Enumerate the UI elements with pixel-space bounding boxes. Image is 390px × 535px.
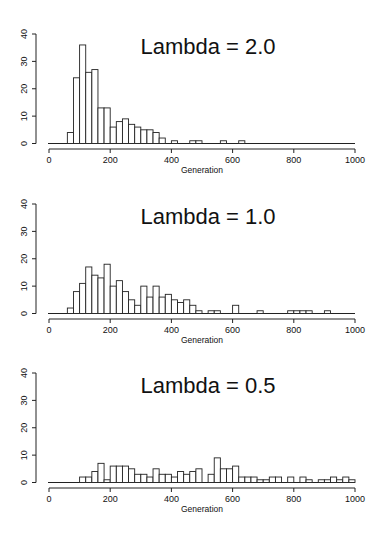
histogram-bar [159, 297, 165, 313]
histogram-bar [116, 281, 122, 314]
histogram-bar [239, 141, 245, 144]
histogram-bar [257, 311, 263, 314]
histogram-bar [220, 469, 226, 483]
histogram-bar [184, 474, 190, 482]
histogram-bar [135, 127, 141, 143]
x-tick-label: 800 [286, 155, 301, 165]
x-tick-label: 800 [286, 325, 301, 335]
histogram-bar [196, 141, 202, 144]
histogram-bar [129, 300, 135, 314]
histogram-chart: 01020304002004006008001000GenerationLamb… [0, 339, 390, 517]
histogram-bar [318, 480, 324, 483]
y-tick-label: 40 [19, 199, 29, 209]
histogram-bar [300, 477, 306, 482]
histogram-bar [184, 300, 190, 314]
x-axis: 02004006008001000Generation [46, 488, 365, 514]
histogram-bar [214, 311, 220, 314]
y-tick-label: 20 [19, 254, 29, 264]
histogram-bar [129, 124, 135, 143]
histogram-bar [165, 294, 171, 313]
histogram-bars [80, 458, 355, 483]
histogram-bar [306, 311, 312, 314]
histogram-bar [73, 78, 79, 144]
histogram-bar [288, 311, 294, 314]
histogram-bar [269, 477, 275, 482]
histogram-panel-lambda-1: 01020304002004006008001000GenerationLamb… [0, 170, 390, 348]
histogram-bar [190, 472, 196, 483]
histogram-bar [86, 72, 92, 143]
histogram-bar [104, 108, 110, 144]
histogram-bar [98, 278, 104, 314]
histogram-bar [165, 474, 171, 482]
y-axis: 010203040 [19, 199, 36, 316]
histogram-bar [343, 477, 349, 482]
histogram-bar [251, 477, 257, 482]
histogram-bar [171, 477, 177, 482]
histogram-bar [233, 305, 239, 313]
histogram-bar [288, 477, 294, 482]
histogram-bar [324, 480, 330, 483]
histogram-bar [171, 141, 177, 144]
y-tick-label: 30 [19, 226, 29, 236]
y-tick-label: 20 [19, 84, 29, 94]
histogram-bar [245, 477, 251, 482]
histogram-bar [104, 264, 110, 313]
x-tick-label: 800 [286, 494, 301, 504]
histogram-chart: 01020304002004006008001000GenerationLamb… [0, 0, 390, 178]
histogram-bar [331, 477, 337, 482]
histogram-bar [239, 477, 245, 482]
histogram-bar [80, 45, 86, 144]
histogram-bar [337, 480, 343, 483]
histogram-bar [306, 480, 312, 483]
chart-title: Lambda = 2.0 [140, 34, 275, 59]
histogram-bar [135, 474, 141, 482]
histogram-bar [153, 133, 159, 144]
histogram-bar [122, 466, 128, 482]
histogram-bars [67, 45, 244, 144]
histogram-bar [349, 480, 355, 483]
histogram-bars [67, 264, 330, 313]
y-axis: 010203040 [19, 368, 36, 485]
histogram-bar [122, 119, 128, 144]
histogram-bar [294, 311, 300, 314]
histogram-panel-lambda-0-5: 01020304002004006008001000GenerationLamb… [0, 339, 390, 517]
histogram-bar [110, 466, 116, 482]
histogram-bar [141, 130, 147, 144]
histogram-bar [80, 283, 86, 313]
histogram-bar [275, 477, 281, 482]
histogram-bar [233, 466, 239, 482]
x-tick-label: 400 [164, 325, 179, 335]
x-tick-label: 1000 [345, 494, 365, 504]
histogram-bar [135, 305, 141, 313]
y-tick-label: 10 [19, 111, 29, 121]
histogram-panel-lambda-2: 01020304002004006008001000GenerationLamb… [0, 0, 390, 178]
x-tick-label: 0 [46, 494, 51, 504]
histogram-bar [147, 297, 153, 313]
histogram-bar [122, 292, 128, 314]
histogram-bar [263, 480, 269, 483]
x-tick-label: 400 [164, 494, 179, 504]
histogram-bar [110, 286, 116, 313]
x-tick-label: 200 [103, 325, 118, 335]
histogram-bar [147, 130, 153, 144]
histogram-bar [67, 308, 73, 313]
x-tick-label: 400 [164, 155, 179, 165]
histogram-bar [226, 469, 232, 483]
histogram-bar [159, 474, 165, 482]
x-tick-label: 200 [103, 155, 118, 165]
y-tick-label: 40 [19, 368, 29, 378]
histogram-bar [300, 311, 306, 314]
histogram-bar [153, 469, 159, 483]
histogram-bar [98, 463, 104, 482]
chart-title: Lambda = 1.0 [140, 204, 275, 229]
x-tick-label: 0 [46, 155, 51, 165]
histogram-bar [110, 127, 116, 143]
x-axis-label: Generation [181, 504, 223, 514]
histogram-bar [190, 305, 196, 313]
histogram-bar [220, 141, 226, 144]
histogram-bar [98, 108, 104, 144]
histogram-bar [86, 267, 92, 314]
histogram-bar [196, 311, 202, 314]
y-tick-label: 0 [19, 311, 29, 316]
histogram-bar [159, 138, 165, 143]
